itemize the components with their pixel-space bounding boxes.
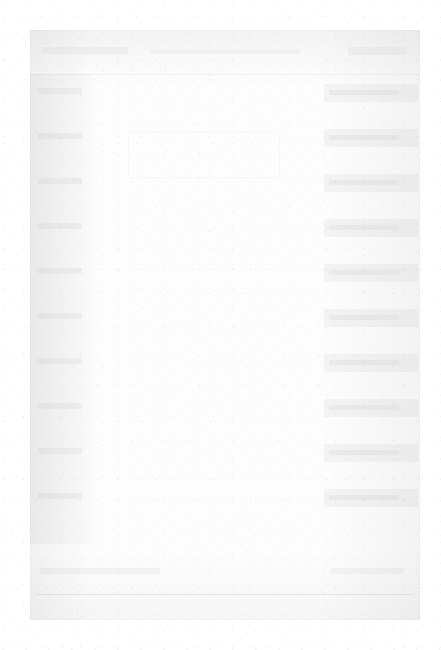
list-item-label bbox=[329, 315, 399, 320]
list-item-label bbox=[329, 225, 399, 230]
list-item-label bbox=[329, 360, 399, 365]
footer-right-text bbox=[330, 568, 404, 574]
sidebar-item-9[interactable] bbox=[38, 493, 82, 499]
list-item[interactable] bbox=[324, 219, 418, 237]
list-item[interactable] bbox=[324, 264, 418, 282]
list-item[interactable] bbox=[324, 489, 418, 507]
page-title bbox=[42, 47, 128, 54]
list-item-label bbox=[329, 180, 399, 185]
sidebar-item-1[interactable] bbox=[38, 133, 82, 139]
sidebar-item-6[interactable] bbox=[38, 358, 82, 364]
main-content bbox=[92, 74, 318, 544]
list-item[interactable] bbox=[324, 399, 418, 417]
left-sidebar bbox=[30, 74, 92, 544]
sidebar-item-8[interactable] bbox=[38, 448, 82, 454]
list-item-label bbox=[329, 450, 399, 455]
list-item[interactable] bbox=[324, 129, 418, 147]
list-item-label bbox=[329, 270, 399, 275]
app-header bbox=[30, 32, 420, 75]
footer-left-text bbox=[40, 568, 160, 574]
list-item-label bbox=[329, 495, 399, 500]
header-action-button[interactable] bbox=[348, 47, 406, 55]
list-item[interactable] bbox=[324, 309, 418, 327]
scan-canvas bbox=[0, 0, 441, 650]
list-item-label bbox=[329, 405, 399, 410]
sidebar-item-4[interactable] bbox=[38, 268, 82, 274]
header-subtitle bbox=[150, 49, 300, 54]
list-item-label bbox=[329, 135, 399, 140]
list-item[interactable] bbox=[324, 84, 418, 102]
right-sidebar bbox=[320, 74, 420, 544]
list-item[interactable] bbox=[324, 354, 418, 372]
list-item-label bbox=[329, 90, 399, 95]
sidebar-item-5[interactable] bbox=[38, 313, 82, 319]
sidebar-item-2[interactable] bbox=[38, 178, 82, 184]
content-block bbox=[128, 132, 280, 178]
sidebar-item-0[interactable] bbox=[38, 88, 82, 94]
list-item[interactable] bbox=[324, 444, 418, 462]
list-item[interactable] bbox=[324, 174, 418, 192]
sidebar-item-3[interactable] bbox=[38, 223, 82, 229]
sidebar-item-7[interactable] bbox=[38, 403, 82, 409]
app-footer bbox=[30, 552, 420, 620]
footer-divider bbox=[36, 594, 414, 595]
